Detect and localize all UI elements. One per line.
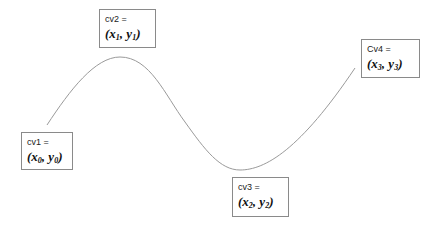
cv4-x-sub: 3 <box>378 63 382 72</box>
cv4-y-sub: 3 <box>394 63 398 72</box>
cv2-x-sub: 1 <box>116 33 120 42</box>
cv3-coordinates: (x2, y2) <box>238 194 288 210</box>
cv4-coordinates: (x3, y3) <box>367 56 419 72</box>
control-point-cv1-box: cv1 = (x0, y0) <box>21 132 73 170</box>
cv1-coordinates: (x0, y0) <box>27 149 72 165</box>
cv1-label: cv1 = <box>27 137 72 148</box>
cv4-label: Cv4 = <box>367 44 419 55</box>
cv2-coordinates: (x1, y1) <box>105 26 155 42</box>
cv1-x-sub: 0 <box>38 156 42 165</box>
cv2-y-sub: 1 <box>132 33 136 42</box>
control-point-cv2-box: cv2 = (x1, y1) <box>99 9 156 48</box>
control-point-cv3-box: cv3 = (x2, y2) <box>232 177 289 217</box>
control-point-cv4-box: Cv4 = (x3, y3) <box>361 39 420 78</box>
cv1-y-sub: 0 <box>54 156 58 165</box>
cv3-x-sub: 2 <box>249 201 253 210</box>
cv3-y-sub: 2 <box>265 201 269 210</box>
cv3-label: cv3 = <box>238 182 288 193</box>
curve-canvas <box>0 0 444 230</box>
cv2-label: cv2 = <box>105 14 155 25</box>
bezier-curve <box>47 57 355 170</box>
